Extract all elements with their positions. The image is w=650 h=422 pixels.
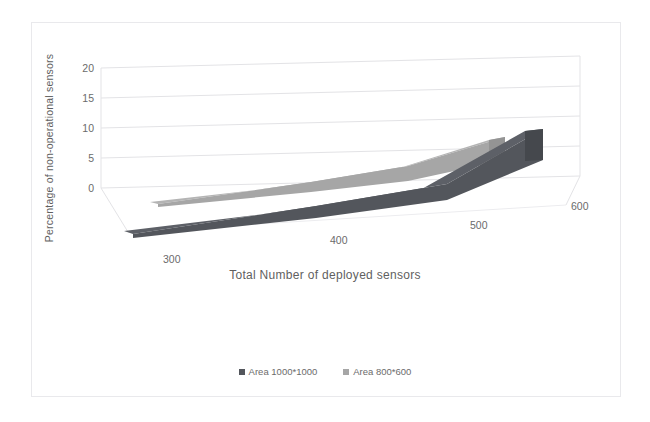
x-tick-600: 600 (571, 200, 589, 212)
x-tick-500: 500 (470, 219, 488, 231)
legend-label: Area 800*600 (353, 366, 411, 377)
plot-area (0, 0, 650, 422)
y-tick-15: 15 (66, 93, 94, 103)
y-axis-ticks: 20 15 10 5 0 (60, 0, 94, 422)
chart-container: 20 15 10 5 0 Percentage of non-operation… (0, 0, 650, 422)
y-tick-10: 10 (66, 123, 94, 133)
legend-item-area-1000x1000[interactable]: Area 1000*1000 (239, 366, 318, 377)
y-tick-0: 0 (66, 183, 94, 193)
x-axis-title: Total Number of deployed sensors (0, 268, 650, 282)
chart-legend: Area 1000*1000 Area 800*600 (0, 366, 650, 377)
legend-item-area-800x600[interactable]: Area 800*600 (343, 366, 411, 377)
legend-label: Area 1000*1000 (249, 366, 318, 377)
x-tick-400: 400 (330, 234, 348, 246)
y-tick-20: 20 (66, 63, 94, 73)
y-tick-5: 5 (66, 153, 94, 163)
y-axis-title: Percentage of non-operational sensors (43, 33, 55, 263)
x-tick-300: 300 (163, 253, 181, 265)
legend-swatch-icon (239, 369, 245, 375)
legend-swatch-icon (343, 369, 349, 375)
